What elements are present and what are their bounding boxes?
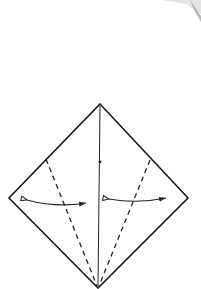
valley-fold-right bbox=[99, 160, 150, 286]
center-crease bbox=[98, 106, 100, 286]
fold-unfold-arrow-left bbox=[27, 200, 86, 205]
fold-unfold-arrow-right bbox=[109, 198, 166, 201]
previous-step-fragment bbox=[162, 0, 201, 22]
valley-fold-left bbox=[46, 159, 97, 286]
origami-diagram bbox=[0, 0, 201, 289]
center-dot bbox=[99, 161, 102, 164]
